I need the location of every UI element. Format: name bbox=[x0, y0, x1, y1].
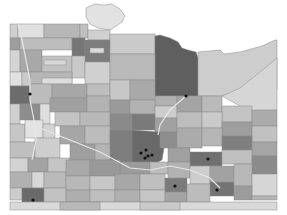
county bbox=[222, 150, 252, 164]
county bbox=[110, 34, 155, 54]
city-marker bbox=[173, 184, 176, 187]
county-layer bbox=[10, 24, 277, 210]
county bbox=[222, 122, 252, 136]
county bbox=[190, 152, 222, 166]
county bbox=[10, 142, 35, 158]
county bbox=[66, 176, 90, 190]
county bbox=[10, 24, 18, 38]
county bbox=[140, 174, 165, 190]
county bbox=[210, 166, 234, 182]
county bbox=[165, 192, 187, 202]
county bbox=[10, 172, 32, 188]
city-marker bbox=[144, 148, 147, 151]
county bbox=[168, 148, 190, 162]
county bbox=[132, 114, 155, 130]
county bbox=[42, 78, 72, 84]
county bbox=[110, 54, 155, 80]
county bbox=[10, 188, 22, 200]
county bbox=[130, 80, 155, 100]
county bbox=[222, 106, 252, 122]
county bbox=[234, 186, 252, 200]
city-marker bbox=[31, 198, 34, 201]
county bbox=[44, 172, 66, 188]
county bbox=[10, 104, 20, 124]
county bbox=[60, 202, 100, 210]
county bbox=[155, 118, 177, 132]
county bbox=[88, 30, 110, 40]
county bbox=[10, 38, 20, 50]
county bbox=[80, 112, 110, 126]
city-marker bbox=[146, 154, 149, 157]
county bbox=[20, 50, 42, 72]
county bbox=[187, 184, 210, 202]
county bbox=[168, 162, 190, 178]
city-marker bbox=[150, 153, 153, 156]
lake bbox=[44, 60, 66, 65]
county bbox=[66, 160, 90, 176]
county bbox=[90, 176, 115, 190]
county bbox=[66, 190, 90, 202]
city-marker bbox=[184, 94, 187, 97]
county bbox=[52, 84, 87, 98]
county bbox=[20, 104, 40, 120]
county bbox=[202, 128, 222, 146]
county bbox=[140, 190, 165, 202]
city-marker bbox=[143, 156, 146, 159]
county bbox=[160, 132, 177, 148]
county bbox=[140, 202, 180, 210]
county bbox=[252, 156, 277, 174]
county bbox=[20, 38, 72, 50]
county bbox=[72, 38, 85, 56]
county bbox=[80, 24, 88, 38]
county bbox=[44, 24, 80, 38]
county bbox=[87, 84, 110, 96]
county-northwest-angle bbox=[86, 4, 125, 30]
city-marker bbox=[206, 157, 209, 160]
county bbox=[252, 142, 277, 156]
city-marker bbox=[28, 92, 31, 95]
county bbox=[10, 158, 28, 172]
county bbox=[32, 172, 44, 188]
county bbox=[28, 158, 48, 172]
county bbox=[252, 126, 277, 142]
lake bbox=[90, 48, 104, 53]
county bbox=[18, 24, 44, 38]
county bbox=[110, 114, 132, 130]
county bbox=[222, 136, 252, 150]
minnesota-county-map bbox=[0, 0, 287, 215]
county bbox=[72, 56, 85, 78]
county bbox=[190, 166, 210, 184]
county bbox=[10, 86, 30, 104]
county bbox=[202, 96, 222, 112]
city-marker bbox=[215, 188, 218, 191]
county bbox=[110, 80, 130, 100]
county-koochiching bbox=[155, 35, 198, 96]
county bbox=[85, 126, 110, 144]
county bbox=[30, 84, 52, 104]
county bbox=[50, 98, 87, 112]
county bbox=[87, 96, 110, 112]
county bbox=[177, 128, 202, 148]
county bbox=[85, 62, 110, 84]
county bbox=[110, 100, 130, 114]
city-marker bbox=[139, 151, 142, 154]
county bbox=[252, 174, 277, 196]
county bbox=[10, 72, 22, 86]
county bbox=[55, 112, 80, 126]
county bbox=[90, 160, 120, 176]
county bbox=[234, 164, 252, 186]
county bbox=[35, 138, 60, 158]
county bbox=[115, 174, 140, 190]
county bbox=[155, 96, 177, 106]
county bbox=[10, 124, 25, 142]
county bbox=[252, 110, 277, 126]
county bbox=[90, 190, 115, 202]
county bbox=[10, 50, 20, 72]
county bbox=[202, 112, 222, 128]
county bbox=[252, 196, 277, 200]
county bbox=[130, 100, 155, 114]
county bbox=[177, 112, 202, 128]
county bbox=[44, 188, 66, 202]
county bbox=[70, 144, 95, 160]
county bbox=[95, 144, 110, 160]
